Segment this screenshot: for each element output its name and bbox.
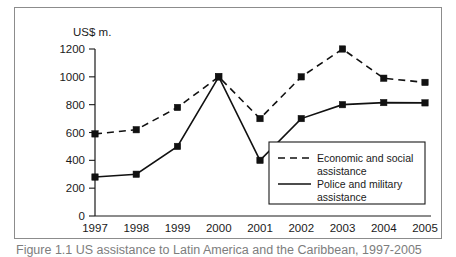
y-tick-label: 400 <box>66 154 85 166</box>
data-point-marker <box>381 75 387 81</box>
data-point-marker <box>92 131 98 137</box>
data-point-marker <box>298 74 304 80</box>
x-tick-label: 2001 <box>247 222 273 234</box>
data-point-marker <box>92 174 98 180</box>
data-point-marker <box>216 74 222 80</box>
chart-frame: US$ m.0200400600800100012001997199819992… <box>14 7 442 239</box>
y-tick-label: 800 <box>66 99 85 111</box>
data-point-marker <box>298 115 304 121</box>
plot-area: US$ m.0200400600800100012001997199819992… <box>15 8 443 240</box>
y-tick-label: 1200 <box>59 43 85 55</box>
data-point-marker <box>422 79 428 85</box>
legend-label-2: Police and military <box>317 178 403 190</box>
x-tick-label: 1999 <box>165 222 191 234</box>
legend-label-1: Economic and social <box>317 152 413 164</box>
figure-caption: Figure 1.1 US assistance to Latin Americ… <box>16 243 440 257</box>
data-point-marker <box>257 115 263 121</box>
x-tick-label: 1998 <box>123 222 149 234</box>
data-point-marker <box>257 157 263 163</box>
x-tick-label: 2004 <box>371 222 397 234</box>
legend-label-1-cont: assistance <box>317 165 367 177</box>
legend-label-2-cont: assistance <box>317 191 367 203</box>
x-tick-label: 2005 <box>412 222 438 234</box>
data-point-marker <box>133 127 139 133</box>
data-point-marker <box>381 99 387 105</box>
y-tick-label: 600 <box>66 127 85 139</box>
data-point-marker <box>422 100 428 106</box>
x-tick-label: 2000 <box>206 222 232 234</box>
data-point-marker <box>133 171 139 177</box>
data-point-marker <box>174 143 180 149</box>
x-tick-label: 2003 <box>330 222 356 234</box>
x-tick-label: 2002 <box>288 222 314 234</box>
data-point-marker <box>174 104 180 110</box>
data-point-marker <box>339 46 345 52</box>
data-point-marker <box>339 101 345 107</box>
y-tick-label: 1000 <box>59 71 85 83</box>
y-tick-label: 200 <box>66 182 85 194</box>
x-tick-label: 1997 <box>82 222 108 234</box>
line-chart: US$ m.0200400600800100012001997199819992… <box>15 8 443 240</box>
y-tick-label: 0 <box>79 210 85 222</box>
y-axis-title: US$ m. <box>73 26 111 38</box>
